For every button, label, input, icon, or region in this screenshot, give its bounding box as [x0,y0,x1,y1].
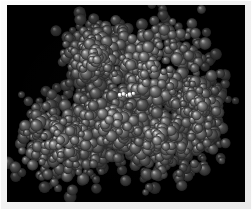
molecule-canvas [7,5,245,202]
molecule-spacefill-model [7,5,245,202]
render-canvas [7,5,245,202]
molecular-figure [0,0,252,210]
